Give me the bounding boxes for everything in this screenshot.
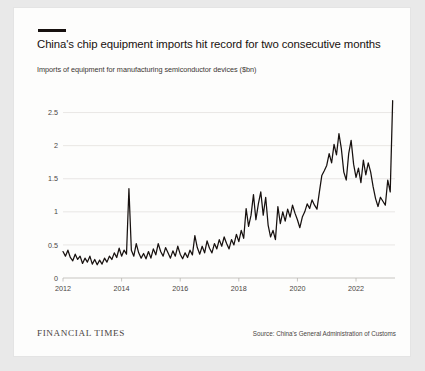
y-axis-tick-label: 2 (54, 141, 58, 150)
y-axis-tick-labels: 00.511.522.5 (48, 108, 58, 282)
x-axis-tick-label: 2016 (172, 284, 188, 293)
x-axis-tick-label: 2014 (114, 284, 130, 293)
y-axis-tick-label: 0 (54, 274, 58, 283)
chart-subtitle: Imports of equipment for manufacturing s… (37, 65, 397, 75)
gridlines (63, 113, 395, 278)
y-axis-tick-label: 2.5 (48, 108, 58, 117)
brand-logo: FINANCIAL TIMES (37, 328, 125, 338)
x-axis (63, 278, 356, 282)
line-chart: 00.511.522.5 201220142016201820202022 (37, 88, 397, 303)
header-rule (38, 29, 66, 32)
page-title: China's chip equipment imports hit recor… (37, 37, 397, 52)
x-axis-tick-label: 2022 (348, 284, 364, 293)
x-axis-tick-labels: 201220142016201820202022 (55, 284, 364, 293)
chart-plot-area: 00.511.522.5 201220142016201820202022 (37, 88, 397, 303)
x-axis-tick-label: 2012 (55, 284, 71, 293)
x-axis-tick-label: 2020 (289, 284, 305, 293)
y-axis-tick-label: 0.5 (48, 241, 58, 250)
y-axis-tick-label: 1.5 (48, 174, 58, 183)
chart-card: China's chip equipment imports hit recor… (14, 8, 410, 356)
y-axis-tick-label: 1 (54, 207, 58, 216)
source-note: Source: China's General Administration o… (253, 330, 396, 337)
data-line-series (63, 101, 393, 265)
x-axis-tick-label: 2018 (231, 284, 247, 293)
